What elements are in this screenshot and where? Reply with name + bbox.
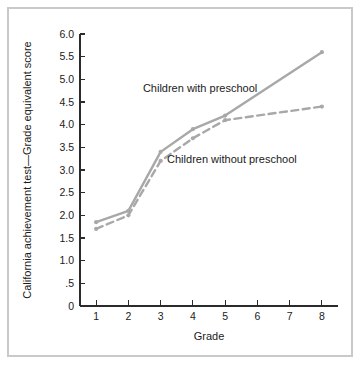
x-axis-ticks [96, 300, 322, 306]
y-tick-label: 3.5 [59, 141, 74, 153]
y-axis-ticks [80, 34, 85, 306]
series-data-point [159, 159, 163, 163]
y-tick-label: 2.0 [59, 209, 74, 221]
x-axis-title: Grade [194, 330, 225, 342]
series-data-point [94, 227, 98, 231]
x-tick-label: 7 [287, 310, 293, 322]
y-tick-label: 3.0 [59, 164, 74, 176]
x-tick-label: 1 [93, 310, 99, 322]
series-data-point [191, 127, 195, 131]
data-series-group [94, 50, 324, 231]
series-annotation-0: Children with preschool [143, 82, 257, 94]
series-data-point [159, 150, 163, 154]
y-tick-label: 0 [68, 300, 74, 312]
series-data-point [223, 118, 227, 122]
series-data-point [191, 136, 195, 140]
series-data-point [126, 213, 130, 217]
y-tick-label: 4.0 [59, 118, 74, 130]
x-tick-label: 8 [319, 310, 325, 322]
x-tick-label: 2 [125, 310, 131, 322]
series-data-point [320, 104, 324, 108]
x-tick-label: 4 [190, 310, 196, 322]
x-tick-label: 5 [222, 310, 228, 322]
x-axis-tick-labels: 12345678 [93, 310, 325, 322]
y-tick-label: 1.5 [59, 232, 74, 244]
y-tick-label: 5.0 [59, 73, 74, 85]
y-tick-label: .5 [65, 277, 74, 289]
y-tick-label: 2.5 [59, 186, 74, 198]
y-axis-tick-labels: 0.51.01.52.02.53.03.54.04.55.05.56.0 [59, 28, 74, 312]
x-tick-label: 3 [158, 310, 164, 322]
series-data-point [223, 114, 227, 118]
series-line-0 [96, 52, 322, 222]
y-axis-title: California achievement test—Grade equiva… [21, 41, 33, 298]
y-tick-label: 5.5 [59, 50, 74, 62]
x-tick-label: 6 [254, 310, 260, 322]
figure-frame: 0.51.01.52.02.53.03.54.04.55.05.56.0 123… [7, 7, 353, 357]
series-data-point [94, 220, 98, 224]
y-tick-label: 6.0 [59, 28, 74, 40]
line-chart: 0.51.01.52.02.53.03.54.04.55.05.56.0 123… [9, 9, 355, 359]
series-line-1 [96, 107, 322, 229]
y-tick-label: 4.5 [59, 96, 74, 108]
y-tick-label: 1.0 [59, 254, 74, 266]
series-annotation-1: Children without preschool [167, 153, 297, 165]
series-data-point [320, 50, 324, 54]
